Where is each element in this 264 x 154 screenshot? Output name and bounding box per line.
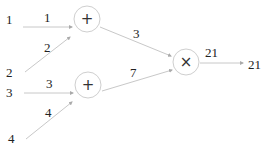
computational-graph: + + × 1 2 3 4 1 2 3 4 3 7 21 21 [0,0,264,154]
output-label: 21 [248,57,261,72]
edge-label-in4: 4 [45,105,52,120]
plus-icon: + [81,10,94,28]
input-label-2: 2 [6,65,13,80]
edge-label-in1: 1 [44,10,51,25]
edge-label-in2: 2 [44,40,51,55]
edge-add2-mul [102,70,172,91]
add-node-1: + [74,6,100,32]
edge-label-add2: 7 [130,65,137,80]
input-label-3: 3 [6,85,13,100]
multiply-node: × [173,49,199,75]
input-label-4: 4 [8,131,15,146]
edge-label-in3: 3 [46,76,53,91]
times-icon: × [180,53,193,71]
plus-icon: + [82,76,95,94]
edge-label-mul: 21 [205,45,218,60]
add-node-2: + [75,72,101,98]
edge-label-add1: 3 [133,26,140,41]
input-label-1: 1 [6,12,13,27]
